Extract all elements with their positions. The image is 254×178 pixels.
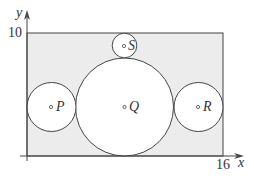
label-q: Q xyxy=(129,100,139,114)
circle-p xyxy=(27,83,76,132)
label-p: P xyxy=(56,100,65,114)
diagram-canvas xyxy=(0,0,254,178)
y-axis-label: y xyxy=(16,6,22,20)
label-r: R xyxy=(203,100,212,114)
x-axis-label: x xyxy=(238,156,244,170)
circle-r xyxy=(174,83,223,132)
label-s: S xyxy=(128,39,135,53)
y-tick-10: 10 xyxy=(8,26,22,40)
x-tick-16: 16 xyxy=(216,158,230,172)
circle-q xyxy=(76,58,174,156)
